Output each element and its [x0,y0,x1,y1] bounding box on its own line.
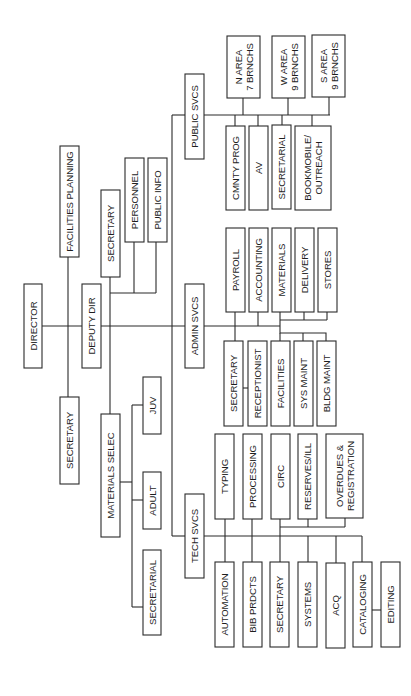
org-box-label: N AREA [233,49,244,84]
org-box-n-area: N AREA7 BRNCHS [227,36,260,98]
org-box-secretary-admin: SECRETARY [224,341,243,426]
org-box-label: CIRC [275,465,286,488]
org-box-accounting: ACCOUNTING [249,228,268,312]
org-box-label: OUTREACH [313,141,324,194]
org-box-label: DIRECTOR [28,301,39,350]
org-box-label: BOOKMOBILE/ [302,135,313,201]
org-box-delivery: DELIVERY [295,228,314,312]
org-box-adult: ADULT [143,472,161,529]
org-box-label: ACQ [330,595,341,616]
org-box-typing: TYPING [215,434,234,519]
org-box-label: MATERIALS SELEC [105,432,116,518]
org-box-secretary-director: SECRETARY [60,397,79,484]
org-box-label: SECRETARY [228,354,239,412]
org-box-bldg-maint: BLDG MAINT [317,341,336,426]
org-box-sys-maint: SYS MAINT [294,341,313,426]
org-box-tech-svcs: TECH SVCS [185,494,204,578]
org-box-cataloging: CATALOGING [353,562,372,647]
org-units: DIRECTORFACILITIES PLANNINGSECRETARYDEPU… [24,35,400,648]
org-box-public-svcs: PUBLIC SVCS [185,74,204,159]
org-box-label: SECRETARY [105,204,116,262]
org-box-label: PERSONNEL [129,170,140,229]
org-box-facilities-planning: FACILITIES PLANNING [60,146,79,257]
org-box-editing: EDITING [381,562,400,647]
org-box-label: PUBLIC SVCS [189,85,200,147]
org-box-automation: AUTOMATION [215,562,234,647]
org-box-label: MATERIALS [276,244,287,297]
org-box-acq: ACQ [326,563,345,648]
org-box-label: DELIVERY [299,246,310,293]
org-box-processing: PROCESSING [243,434,262,519]
org-box-label: PAYROLL [230,248,241,291]
org-box-label: W AREA [278,48,289,85]
org-box-label: SYSTEMS [302,582,313,627]
org-box-label: STORES [322,251,333,290]
org-box-receptionist: RECEPTIONIST [248,341,267,426]
org-box-label: SECRETARIAL [276,134,287,200]
org-box-admin-svcs: ADMIN SVCS [185,284,204,368]
org-box-label: S AREA [318,48,329,83]
org-box-bookmobile-outreach: BOOKMOBILE/OUTREACH [295,126,331,210]
org-box-director: DIRECTOR [24,284,42,368]
org-box-secretary-tech: SECRETARY [270,562,289,647]
org-box-systems: SYSTEMS [298,562,317,647]
org-box-label: DEPUTY DIR [86,297,97,354]
org-box-label: JUV [147,396,158,415]
org-box-label: SECRETARY [274,575,285,633]
org-box-cmnty-prog: CMNTY PROG [226,126,245,210]
org-box-deputy-dir: DEPUTY DIR [82,284,101,368]
org-box-label: EDITING [385,585,396,623]
org-box-label: 9 BRNCHS [329,42,340,90]
org-box-s-area: S AREA9 BRNCHS [312,35,345,97]
org-box-label: CMNTY PROG [230,136,241,200]
org-chart-diagram: DIRECTORFACILITIES PLANNINGSECRETARYDEPU… [0,0,411,696]
org-box-stores: STORES [318,228,337,312]
org-box-label: SECRETARIAL [147,559,158,625]
org-box-av: AV [249,126,268,210]
org-box-label: PUBLIC INFO [152,170,163,229]
org-box-materials-selec: MATERIALS SELEC [101,414,120,537]
org-box-label: TYPING [219,459,230,494]
org-box-label: OVERDUES & [334,444,345,507]
org-box-personnel: PERSONNEL [125,158,144,242]
org-box-label: CATALOGING [357,574,368,634]
org-box-materials-admin: MATERIALS [272,228,291,312]
org-box-label: ADMIN SVCS [189,297,200,356]
org-box-label: FACILITIES [275,359,286,409]
org-box-juv: JUV [143,377,161,434]
org-box-label: AUTOMATION [219,573,230,635]
org-box-label: SYS MAINT [298,358,309,409]
org-box-label: BLDG MAINT [321,354,332,412]
org-box-label: PROCESSING [247,445,258,508]
org-box-label: REGISTRATION [345,441,356,511]
org-box-label: ACCOUNTING [253,238,264,302]
org-box-label: SECRETARY [64,411,75,469]
org-box-overdues-registration: OVERDUES &REGISTRATION [326,434,363,518]
org-box-secretarial-public: SECRETARIAL [272,125,291,209]
org-box-secretary-deputy: SECRETARY [101,190,120,277]
org-box-secretarial-materials: SECRETARIAL [143,550,161,635]
org-box-label: RESERVES/ILL [302,442,313,510]
org-box-payroll: PAYROLL [226,228,245,312]
org-box-label: ADULT [147,485,158,515]
org-box-bib-prdcts: BIB PRDCTS [243,562,262,647]
org-box-facilities: FACILITIES [271,341,290,426]
org-box-w-area: W AREA9 BRNCHS [272,36,305,98]
org-box-label: TECH SVCS [189,509,200,563]
org-box-reserves-ill: RESERVES/ILL [298,434,317,519]
org-box-label: FACILITIES PLANNING [64,151,75,251]
org-box-label: BIB PRDCTS [247,576,258,633]
org-box-label: 7 BRNCHS [244,43,255,91]
org-box-circ: CIRC [271,434,290,519]
org-box-public-info: PUBLIC INFO [148,158,167,242]
org-box-label: AV [253,161,264,174]
org-box-label: RECEPTIONIST [252,348,263,418]
org-box-label: 9 BRNCHS [289,43,300,91]
